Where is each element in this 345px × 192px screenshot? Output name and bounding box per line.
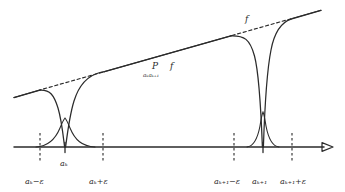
label-interpolant-P: P: [151, 61, 159, 71]
label-interpolant-subscript: aₖaₖ₊₁: [143, 72, 159, 78]
interpolant-curve-right-tail: [291, 10, 321, 19]
interpolant-curve-right-descending: [231, 36, 262, 147]
label-interpolant-operand: f: [169, 61, 175, 71]
tick-label-akplus1-minus-eps: aₖ₊₁−ε: [214, 177, 240, 186]
tick-label-akplus1-plus-eps: aₖ₊₁+ε: [280, 177, 306, 186]
interpolant-curve-right-ascending: [263, 19, 291, 147]
tick-label-akplus1: aₖ₊₁: [252, 177, 267, 186]
figure-canvas: P aₖaₖ₊₁ f f aₖ−ε aₖ aₖ+ε aₖ₊₁−ε aₖ₊₁ aₖ…: [0, 0, 345, 192]
tick-label-ak-plus-eps: aₖ+ε: [89, 177, 108, 186]
tick-label-ak: aₖ: [60, 159, 68, 168]
label-function-f: f: [244, 14, 250, 24]
tick-label-ak-minus-eps: aₖ−ε: [25, 177, 44, 186]
interpolant-curve-left-descending: [40, 90, 65, 147]
interpolant-curve-left-tail: [14, 90, 40, 98]
interpolant-curve-left-ascending: [66, 72, 105, 147]
f-line-dashed-right: [232, 19, 292, 36]
math-figure: P aₖaₖ₊₁ f f aₖ−ε aₖ aₖ+ε aₖ₊₁−ε aₖ₊₁ aₖ…: [0, 0, 345, 192]
interpolant-curve-middle: [105, 36, 232, 72]
